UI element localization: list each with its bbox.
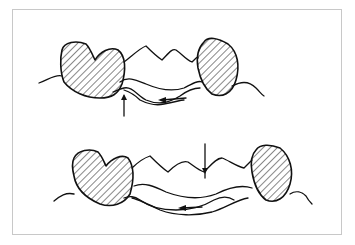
arrowhead-up-top (121, 94, 127, 100)
denture-teeth-bottom (132, 156, 252, 172)
arrowhead-left-top (158, 97, 166, 103)
left-abutment-tooth-top (61, 42, 125, 98)
denture-teeth-top (124, 46, 198, 62)
left-abutment-tooth-bottom (73, 150, 133, 206)
right-abutment-tooth-top (197, 38, 238, 95)
right-abutment-tooth-bottom (251, 145, 291, 201)
dental-diagram (0, 0, 355, 245)
bottom-panel (54, 144, 312, 215)
top-panel (39, 38, 264, 116)
